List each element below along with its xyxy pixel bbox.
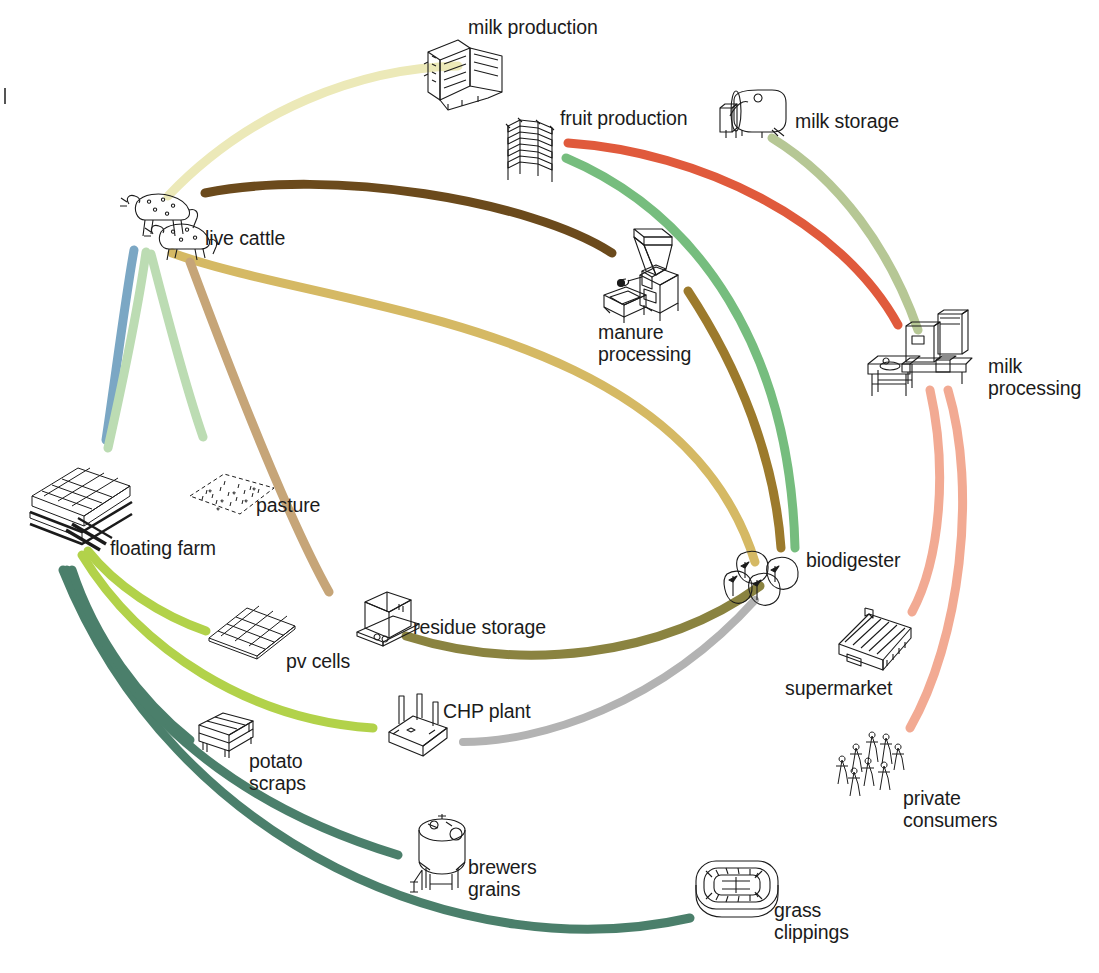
node-label-chp-plant: CHP plant (443, 700, 531, 722)
flow-arc-floating-farm-to-milk-production (168, 66, 458, 196)
milking-machine-icon (418, 34, 514, 116)
stadium-icon (692, 855, 782, 925)
node-label-pasture: pasture (256, 494, 320, 516)
supermarket-building-icon (835, 604, 915, 670)
greenhouse-rack-icon (500, 112, 562, 186)
node-label-potato-scraps: potato scraps (249, 750, 306, 794)
residue-box-icon (353, 588, 421, 650)
node-label-live-cattle: live cattle (205, 227, 285, 249)
node-label-milk-production: milk production (468, 16, 598, 38)
node-label-pv-cells: pv cells (286, 650, 350, 672)
cattle-icon (115, 188, 207, 260)
biodigester-tanks-icon (723, 548, 803, 614)
manure-processor-icon (600, 227, 686, 327)
node-label-milk-storage: milk storage (795, 110, 899, 132)
milk-tank-icon (712, 86, 790, 144)
node-label-fruit-production: fruit production (560, 107, 687, 129)
node-label-biodigester: biodigester (806, 549, 900, 571)
flow-arc-milk-storage-to-milk-processing (772, 138, 918, 330)
node-label-milk-processing: milk processing (988, 355, 1081, 399)
silo-tank-icon (408, 812, 474, 896)
node-label-grass-clippings: grass clippings (774, 899, 849, 943)
processing-plant-icon (866, 310, 974, 402)
node-label-supermarket: supermarket (785, 677, 892, 699)
diagram-canvas: milk production fruit production milk st… (0, 0, 1099, 973)
node-label-private-consumers: private consumers (903, 787, 997, 831)
node-label-residue-storage: residue storage (413, 616, 546, 638)
solar-panel-icon (205, 604, 299, 660)
node-label-brewers-grains: brewers grains (468, 856, 537, 900)
node-label-manure-processing: manure processing (598, 321, 691, 365)
node-label-floating-farm: floating farm (110, 537, 216, 559)
flow-arc-milk-processing-to-supermarket (912, 390, 940, 612)
